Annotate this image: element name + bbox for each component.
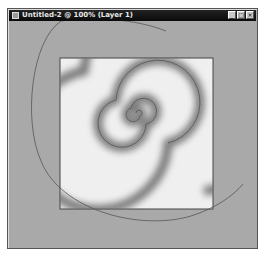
title-bar[interactable]: Untitled-2 @ 100% (Layer 1) _ □ × (9, 10, 256, 21)
minimize-button[interactable]: _ (228, 11, 236, 19)
close-button[interactable]: × (246, 11, 254, 19)
canvas-workspace[interactable] (9, 21, 256, 247)
spiral-artwork (9, 21, 256, 247)
maximize-button[interactable]: □ (237, 11, 245, 19)
document-window: Untitled-2 @ 100% (Layer 1) _ □ × (7, 8, 258, 249)
window-title: Untitled-2 @ 100% (Layer 1) (22, 10, 133, 21)
document-icon (12, 12, 19, 19)
window-controls: _ □ × (228, 11, 254, 19)
